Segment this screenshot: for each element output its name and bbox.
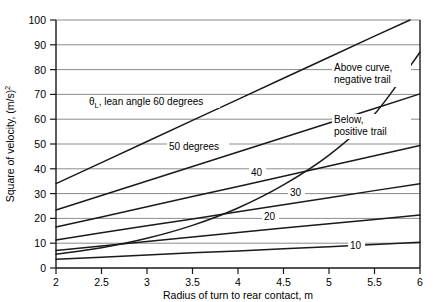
y-tick-label-10: 10 (34, 237, 46, 249)
annotation-below-line2: positive trail (334, 126, 387, 137)
y-axis-title: Square of velocity, (m/s)2 (3, 86, 16, 203)
y-tick-label-100: 100 (28, 14, 46, 26)
y-tick-label-0: 0 (40, 262, 46, 274)
x-tick-label-4p5: 4.5 (276, 276, 291, 288)
annotation-above-line2: negative trail (334, 74, 391, 85)
x-tick-label-4: 4 (235, 276, 241, 288)
annotation-50-degrees: 50 degrees (167, 140, 229, 153)
y-axis-title-superscript: 2 (3, 86, 12, 90)
annotation-30: 30 (288, 186, 305, 199)
annotation-10-text: 10 (350, 240, 362, 251)
x-axis-title: Radius of turn to rear contact, m (163, 289, 313, 301)
annotation-lean-angle-60: θL, lean angle 60 degrees (87, 95, 220, 110)
annotation-above-line1: Above curve, (334, 62, 392, 73)
y-tick-label-40: 40 (34, 163, 46, 175)
y-tick-label-60: 60 (34, 113, 46, 125)
x-tick-label-3p5: 3.5 (185, 276, 200, 288)
y-tick-label-30: 30 (34, 188, 46, 200)
annotation-10: 10 (348, 239, 365, 252)
x-tick-labels: 2 2.5 3 3.5 4 4.5 5 5.5 6 (53, 276, 423, 288)
y-tick-label-50: 50 (34, 138, 46, 150)
svg-text:Square of velocity, (m/s)2: Square of velocity, (m/s)2 (3, 86, 16, 203)
annotation-50-text: 50 degrees (169, 141, 219, 152)
y-tick-label-20: 20 (34, 212, 46, 224)
annotation-below-line1: Below, (334, 114, 363, 125)
x-tick-label-5p5: 5.5 (367, 276, 382, 288)
annotation-20: 20 (262, 210, 279, 223)
velocity-radius-line-chart: 100 90 80 70 60 50 40 30 20 10 0 2 2.5 3… (0, 0, 438, 302)
y-tick-label-80: 80 (34, 64, 46, 76)
annotation-40: 40 (249, 166, 266, 179)
y-tick-label-70: 70 (34, 88, 46, 100)
y-axis-title-text: Square of velocity, (m/s) (4, 90, 16, 202)
x-tick-label-3: 3 (144, 276, 150, 288)
annotation-40-text: 40 (251, 167, 263, 178)
x-tick-label-2p5: 2.5 (94, 276, 109, 288)
annotation-below-curve: Below, positive trail (332, 114, 411, 139)
x-tick-label-2: 2 (53, 276, 59, 288)
annotation-30-text: 30 (290, 187, 302, 198)
annotation-above-curve: Above curve, negative trail (332, 62, 411, 87)
x-tick-label-6: 6 (417, 276, 423, 288)
y-tick-label-90: 90 (34, 39, 46, 51)
lean-angle-text: , lean angle 60 degrees (99, 96, 204, 107)
annotation-20-text: 20 (264, 211, 276, 222)
chart-figure: 100 90 80 70 60 50 40 30 20 10 0 2 2.5 3… (0, 0, 438, 302)
x-tick-label-5: 5 (326, 276, 332, 288)
